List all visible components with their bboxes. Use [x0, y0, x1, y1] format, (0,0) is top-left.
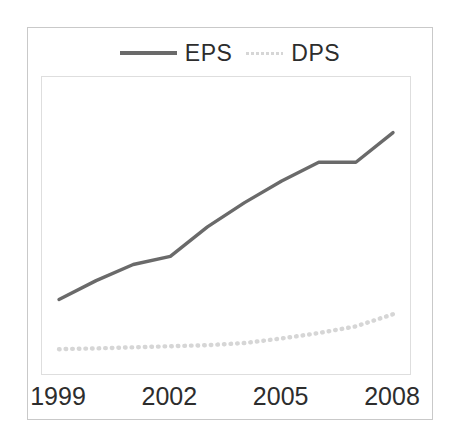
legend-item-dps: DPS [245, 42, 340, 65]
x-tick-label-2005: 2005 [253, 381, 309, 411]
series-line-eps [59, 133, 393, 300]
dotted-line-swatch-icon [245, 51, 283, 56]
x-tick-label-1999: 1999 [30, 381, 86, 411]
chart-legend: EPS DPS [27, 38, 433, 68]
chart-figure: EPS DPS 1999 2002 2005 2008 [0, 0, 456, 447]
legend-item-eps: EPS [120, 42, 233, 65]
plot-area [41, 76, 411, 375]
x-tick-label-2008: 2008 [364, 381, 420, 411]
x-tick-label-2002: 2002 [142, 381, 198, 411]
legend-label-eps: EPS [185, 42, 233, 65]
plot-svg [42, 77, 411, 375]
x-axis-tick-labels: 1999 2002 2005 2008 [27, 381, 433, 415]
solid-line-swatch-icon [120, 51, 177, 55]
series-line-dps [59, 314, 393, 349]
legend-label-dps: DPS [291, 42, 340, 65]
